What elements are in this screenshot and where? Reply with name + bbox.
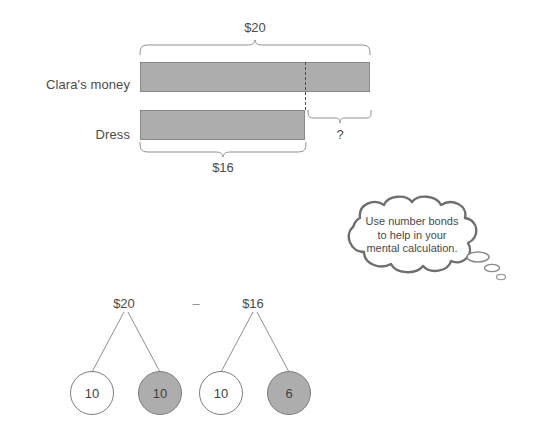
thought-bubble-line-3: mental calculation. (332, 242, 492, 256)
bar-dress (140, 110, 305, 140)
bond-node-20-part-2: 10 (138, 371, 182, 415)
bond-node-value: 6 (285, 386, 292, 401)
bond-node-value: 10 (85, 386, 99, 401)
thought-bubble-line-1: Use number bonds (332, 215, 492, 229)
top-brace-label: $20 (138, 20, 372, 35)
bond-connectors-16 (205, 312, 305, 374)
unknown-brace (307, 110, 373, 125)
top-brace (138, 40, 372, 56)
thought-bubble-line-2: to help in your (332, 229, 492, 243)
bond-node-16-part-2: 6 (267, 371, 311, 415)
row-label-dress: Dress (10, 127, 130, 142)
bar-claras-money (140, 62, 370, 92)
operator-minus: – (180, 296, 212, 311)
thought-bubble-text: Use number bonds to help in your mental … (332, 215, 492, 256)
unknown-label: ? (307, 127, 373, 142)
bottom-brace (138, 142, 308, 158)
bond-node-16-part-1: 10 (199, 371, 243, 415)
bond-node-20-part-1: 10 (70, 371, 114, 415)
bond-total-16: $16 (213, 296, 293, 311)
row-label-claras-money: Clara's money (10, 77, 130, 92)
bar-model-worksheet: $20 Clara's money Dress ? $16 Use number… (0, 0, 542, 441)
bond-node-value: 10 (214, 386, 228, 401)
bar-divider-dashed (305, 62, 306, 110)
bond-connectors-20 (76, 312, 176, 374)
bottom-brace-label: $16 (138, 160, 308, 175)
bond-node-value: 10 (153, 386, 167, 401)
bond-total-20: $20 (84, 296, 164, 311)
